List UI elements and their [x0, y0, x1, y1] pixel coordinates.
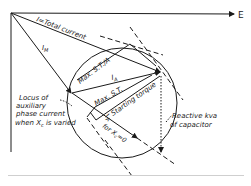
ia-label: IA — [111, 73, 119, 83]
axis-label-e: E — [238, 10, 244, 20]
for-xc0-label: for Xc=0 — [101, 122, 128, 145]
locus-leader — [60, 100, 72, 106]
total-current-label: I=Total current — [35, 15, 87, 41]
im-label: IM — [42, 44, 49, 53]
svg-text:phase current: phase current — [15, 110, 65, 118]
reactive-kva-annotation: Reactive kva of capacitor — [170, 112, 217, 129]
ia-xc0-extension — [137, 138, 176, 165]
svg-text:when Xc is varied: when Xc is varied — [15, 119, 76, 128]
svg-text:Locus of: Locus of — [19, 94, 50, 102]
max-st-a-label: Max. S.T./A — [76, 56, 112, 86]
svg-text:Reactive kva: Reactive kva — [172, 112, 217, 120]
bottom-rule — [8, 175, 244, 176]
circle-diagram: E IM I=Total current IA IA for Xc=0 Max.… — [0, 0, 251, 186]
svg-text:auxiliary: auxiliary — [16, 102, 47, 110]
svg-text:of capacitor: of capacitor — [170, 121, 213, 129]
